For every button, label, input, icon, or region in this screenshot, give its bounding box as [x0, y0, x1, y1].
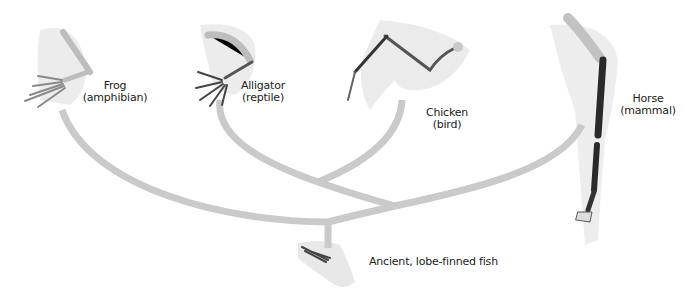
- label-horse: Horse (mammal): [612, 93, 684, 117]
- chicken-shoulder: [453, 42, 463, 52]
- taxon-group-horse: (mammal): [612, 105, 684, 117]
- horse-hoof: [576, 212, 592, 222]
- label-chicken: Chicken (bird): [412, 107, 482, 131]
- branch-to-horse: [395, 125, 582, 206]
- branch-to-frog: [62, 110, 328, 222]
- label-frog: Frog (amphibian): [75, 80, 155, 104]
- chicken-wing-halo: [361, 20, 470, 110]
- label-alligator: Alligator (reptile): [228, 80, 298, 104]
- taxon-group-chicken: (bird): [412, 119, 482, 131]
- branch-to-alligator: [220, 100, 318, 182]
- label-ancestor-fish: Ancient, lobe-finned fish: [369, 256, 498, 268]
- branch-base-to-node2: [328, 206, 395, 222]
- branch-to-chicken: [318, 100, 402, 182]
- taxon-group-alligator: (reptile): [228, 92, 298, 104]
- phylogenetic-tree-diagram: [0, 0, 685, 299]
- taxon-group-frog: (amphibian): [75, 92, 155, 104]
- horse-cannon-bone: [594, 145, 597, 190]
- chicken-digits: [348, 72, 355, 100]
- branch-node2-to-node3: [318, 182, 395, 206]
- horse-radius: [598, 60, 603, 135]
- tree-branches: [62, 100, 582, 248]
